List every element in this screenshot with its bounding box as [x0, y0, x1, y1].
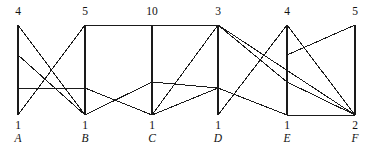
bottom-value-f: 2: [352, 120, 358, 132]
top-value-f: 5: [352, 6, 358, 18]
network-graph-svg: [0, 0, 374, 144]
top-value-e: 4: [284, 6, 290, 18]
top-value-a: 4: [15, 6, 21, 18]
axis-letter-e: E: [283, 133, 290, 144]
bottom-value-d: 1: [215, 120, 221, 132]
bottom-value-c: 1: [149, 120, 155, 132]
graph-edge: [85, 82, 152, 115]
axis-letter-a: A: [14, 133, 21, 144]
bottom-value-b: 1: [82, 120, 88, 132]
bottom-value-a: 1: [15, 120, 21, 132]
axis-letter-c: C: [148, 133, 156, 144]
graph-edge: [287, 82, 355, 115]
axis-letter-f: F: [351, 133, 358, 144]
graph-edge: [287, 25, 355, 55]
edge-layer: [18, 25, 355, 115]
graph-edge: [18, 55, 85, 115]
graph-edge: [218, 25, 287, 82]
top-value-b: 5: [82, 6, 88, 18]
graph-edge: [85, 88, 152, 115]
graph-edge: [152, 82, 218, 88]
graph-edge: [287, 25, 355, 115]
diagram-canvas: 41A51B101C31D41E52F: [0, 0, 374, 144]
axis-letter-d: D: [214, 133, 222, 144]
axis-letter-b: B: [81, 133, 88, 144]
top-value-c: 10: [146, 6, 158, 18]
bottom-value-e: 1: [284, 120, 290, 132]
axis-layer: [18, 25, 355, 115]
top-value-d: 3: [215, 6, 221, 18]
